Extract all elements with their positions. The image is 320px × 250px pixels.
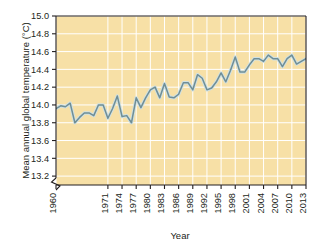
x-tick-label: 1980 — [142, 193, 152, 213]
y-tick-label: 13.6 — [31, 136, 49, 146]
x-tick-label: 2010 — [284, 193, 294, 213]
x-tick-label: 1974 — [114, 193, 124, 213]
x-tick-label: 2004 — [256, 193, 266, 213]
y-tick-label: 14.6 — [31, 47, 49, 57]
x-tick-label: 1989 — [185, 193, 195, 213]
x-tick-label: 2001 — [241, 193, 251, 213]
y-tick-label: 14.0 — [31, 100, 49, 110]
x-tick-label: 1977 — [128, 193, 138, 213]
y-tick-label: 15.0 — [31, 11, 49, 21]
y-tick-label: 13.4 — [31, 154, 49, 164]
line-chart-plot: 15.014.814.614.414.214.013.813.613.413.2… — [0, 0, 320, 250]
plot-background — [56, 16, 306, 185]
x-tick-label: 1998 — [227, 193, 237, 213]
y-axis-ticks: 15.014.814.614.414.214.013.813.613.413.2 — [31, 11, 56, 181]
x-tick-label: 1983 — [156, 193, 166, 213]
x-tick-label: 1971 — [100, 193, 110, 213]
x-tick-label: 2007 — [270, 193, 280, 213]
x-axis-title: Year — [130, 230, 189, 241]
x-tick-label: 2013 — [298, 193, 308, 213]
y-tick-label: 14.8 — [31, 29, 49, 39]
y-tick-label: 13.8 — [31, 118, 49, 128]
x-tick-label: 1986 — [171, 193, 181, 213]
chart-figure: Mean annual global temperature (°C) 15.0… — [0, 0, 320, 250]
y-tick-label: 13.2 — [31, 171, 49, 181]
x-tick-label: 1995 — [213, 193, 223, 213]
y-tick-label: 14.4 — [31, 65, 49, 75]
x-tick-label: 1992 — [199, 193, 209, 213]
x-axis-title-wrap: Year — [0, 230, 320, 241]
x-axis-ticks: 1960197119741977198019831986198919921995… — [48, 185, 308, 213]
y-axis-title: Mean annual global temperature (°C) — [20, 16, 31, 186]
y-tick-label: 14.2 — [31, 82, 49, 92]
x-tick-label: 1960 — [48, 193, 58, 213]
